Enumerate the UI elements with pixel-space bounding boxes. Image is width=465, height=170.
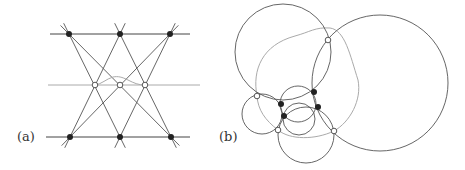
filled-vertex	[117, 31, 123, 37]
filled-vertex	[278, 101, 284, 107]
pseudocircle-curve	[256, 28, 359, 138]
filled-vertex	[117, 134, 123, 140]
panel-b-circle-arrangement	[235, 4, 448, 163]
circle	[235, 4, 331, 100]
open-vertex	[275, 127, 281, 133]
panel-b-label: (b)	[219, 129, 237, 144]
filled-vertex	[66, 31, 72, 37]
filled-vertex	[167, 31, 173, 37]
panel-a-label: (a)	[17, 129, 35, 144]
filled-vertex	[168, 134, 174, 140]
open-vertex	[325, 37, 331, 43]
filled-vertex	[281, 113, 287, 119]
open-vertex	[92, 82, 98, 88]
filled-vertex	[311, 89, 317, 95]
open-vertex	[142, 82, 148, 88]
diagram-canvas	[0, 0, 465, 170]
open-vertex	[254, 93, 260, 99]
filled-vertex	[315, 104, 321, 110]
panel-a-line-arrangement	[46, 23, 200, 148]
open-vertex	[331, 128, 337, 134]
open-vertex	[117, 82, 123, 88]
filled-vertex	[67, 134, 73, 140]
